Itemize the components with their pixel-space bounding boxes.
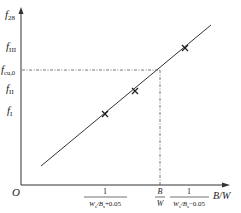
- y-axis-arrow-icon: [19, 7, 24, 14]
- chart-canvas: f28 fIII fcu,0 fII fI O 1 Ws/Bs+0.05 B W…: [0, 0, 241, 213]
- data-point-marker: [102, 111, 108, 117]
- x-tick-bw: B W: [155, 187, 165, 208]
- x-tick-high: 1 Ws/Bs−0.05: [170, 187, 209, 209]
- y-tick-f-ii: fII: [6, 82, 14, 96]
- fit-line: [41, 25, 211, 166]
- svg-text:B: B: [158, 187, 163, 196]
- svg-text:W: W: [157, 199, 165, 208]
- x-axis-arrow-icon: [222, 183, 230, 188]
- x-tick-low: 1 Ws/Bs+0.05: [84, 187, 127, 209]
- y-tick-f-cu0: fcu,0: [1, 63, 15, 76]
- x-axis-title: B/W: [213, 190, 232, 201]
- svg-text:Ws/Bs+0.05: Ws/Bs+0.05: [89, 200, 122, 209]
- svg-text:Ws/Bs−0.05: Ws/Bs−0.05: [173, 200, 206, 209]
- y-axis-title: f28: [5, 8, 16, 22]
- y-tick-f-i: fI: [7, 104, 13, 118]
- origin-label: O: [12, 186, 20, 198]
- y-tick-f-iii: fIII: [6, 40, 17, 54]
- data-point-marker: [132, 88, 138, 94]
- svg-text:1: 1: [187, 187, 191, 196]
- svg-text:1: 1: [103, 187, 107, 196]
